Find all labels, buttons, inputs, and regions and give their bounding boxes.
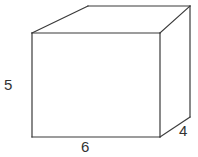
- top-face-group: [32, 6, 190, 33]
- prism-diagram: 5 6 4: [0, 0, 198, 157]
- dimension-label-depth: 4: [179, 123, 187, 138]
- dimension-label-height: 5: [4, 77, 12, 92]
- edge-top-left-diagonal: [32, 6, 88, 33]
- front-face-group: [32, 33, 160, 137]
- right-face-group: [160, 6, 190, 137]
- dimension-label-width: 6: [81, 139, 89, 154]
- prism-drawing: [0, 0, 198, 157]
- edge-top-right-diagonal: [160, 6, 190, 33]
